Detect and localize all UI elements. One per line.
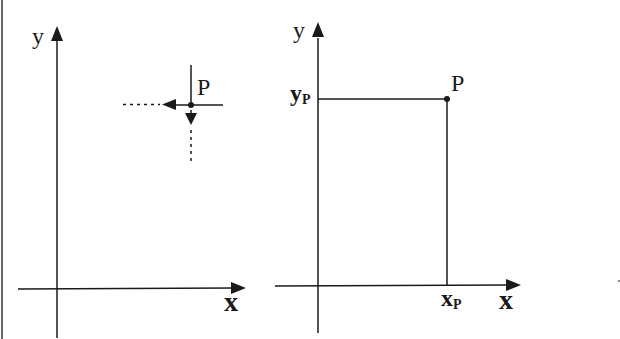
down-arrow-icon [185, 113, 197, 125]
diagram-svg: y x P y x P yP xP [0, 0, 620, 339]
right-y-axis-arrow-icon [312, 22, 324, 37]
left-y-axis-label: y [32, 23, 44, 49]
yp-label: yP [290, 80, 311, 107]
right-point-p-dot [444, 96, 450, 102]
left-arrow-icon [162, 99, 176, 110]
right-x-axis [275, 285, 508, 286]
left-x-axis-label: x [224, 286, 238, 317]
left-x-axis [18, 288, 232, 289]
left-point-p-dot [188, 102, 194, 108]
left-y-axis-arrow-icon [51, 26, 63, 41]
right-panel: y x P yP xP [275, 17, 521, 333]
right-point-label: P [451, 70, 464, 96]
left-point-label: P [197, 74, 210, 100]
right-y-axis-label: y [293, 17, 305, 43]
xp-label: xP [441, 285, 462, 312]
right-x-axis-label: x [499, 284, 513, 315]
left-panel: y x P [18, 23, 246, 338]
coordinate-diagram: y x P y x P yP xP [0, 0, 620, 339]
